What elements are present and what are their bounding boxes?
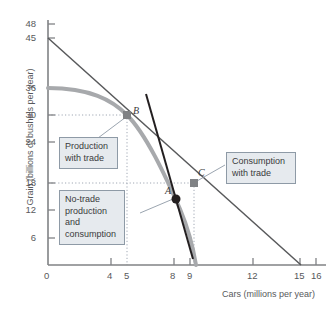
leader-line-production xyxy=(98,117,126,138)
point-marker-c xyxy=(190,179,198,187)
callout-production-with-trade: Production with trade xyxy=(59,137,118,169)
point-label-c: C xyxy=(198,168,205,178)
y-tick-label-45: 45 xyxy=(8,33,36,43)
y-axis-title-wrapper: Grain (billions of bushels per year) xyxy=(19,57,37,217)
x-tick-label-16: 16 xyxy=(311,271,322,281)
x-axis-title: Cars (millions per year) xyxy=(222,290,315,299)
x-tick-label-8: 8 xyxy=(170,271,175,281)
point-marker-b xyxy=(123,111,131,119)
callout-consumption-with-trade: Consumption with trade xyxy=(226,152,296,184)
x-tick-label-0: 0 xyxy=(44,271,49,281)
point-marker-a xyxy=(172,195,181,204)
x-axis-ticks xyxy=(111,258,316,265)
x-tick-label-4: 4 xyxy=(107,271,112,281)
x-tick-label-9: 9 xyxy=(187,271,192,281)
ppf-trade-chart: 48 45 36 30 24 18 12 6 0 4 5 8 9 12 15 1… xyxy=(0,0,333,317)
point-label-b: B xyxy=(133,106,139,116)
callout-no-trade-production-consumption: No-trade production and consumption xyxy=(59,190,125,245)
y-axis-title: Grain (billions of bushels per year) xyxy=(26,68,35,205)
no-trade-price-line xyxy=(146,94,193,259)
x-tick-label-5: 5 xyxy=(124,271,129,281)
y-tick-label-48: 48 xyxy=(8,19,36,29)
x-tick-label-15: 15 xyxy=(294,271,305,281)
leader-line-no-trade xyxy=(140,199,173,213)
point-label-a: A xyxy=(165,186,171,196)
y-axis-ticks xyxy=(48,24,55,238)
x-tick-label-12: 12 xyxy=(247,271,258,281)
y-tick-label-6: 6 xyxy=(8,233,36,243)
